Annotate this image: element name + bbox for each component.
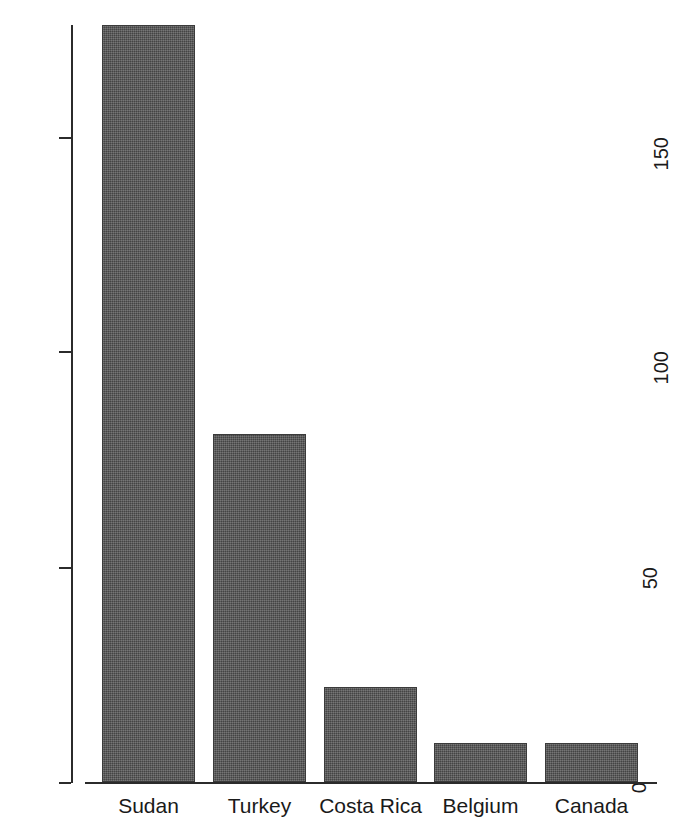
plot-area: 150 100 50 0 Sudan Turkey Costa Rica Bel… [0,0,680,840]
bar-canada[interactable] [545,743,638,782]
y-axis-line [71,25,73,783]
bar-sudan[interactable] [102,25,195,782]
bar-turkey[interactable] [213,434,306,782]
y-tick-150 [59,137,71,139]
y-tick-label-50-text: 50 [640,567,660,589]
x-tick-label-canada: Canada [540,793,643,819]
bar-chart: 150 100 50 0 Sudan Turkey Costa Rica Bel… [0,0,680,840]
y-tick-50 [59,567,71,569]
bar-costa-rica[interactable] [324,687,417,782]
y-tick-label-50: 50 [628,557,680,577]
x-tick-label-turkey: Turkey [213,793,306,819]
y-tick-100 [59,351,71,353]
y-tick-label-100-text: 100 [651,351,671,384]
x-tick-label-costa-rica: Costa Rica [314,793,427,819]
y-tick-0 [59,782,71,784]
x-axis-line [85,782,657,784]
y-tick-label-150: 150 [628,127,680,147]
x-tick-label-sudan: Sudan [102,793,195,819]
y-tick-label-100: 100 [628,341,680,361]
bar-belgium[interactable] [434,743,527,782]
y-tick-label-150-text: 150 [651,137,671,170]
x-tick-label-belgium: Belgium [429,793,532,819]
